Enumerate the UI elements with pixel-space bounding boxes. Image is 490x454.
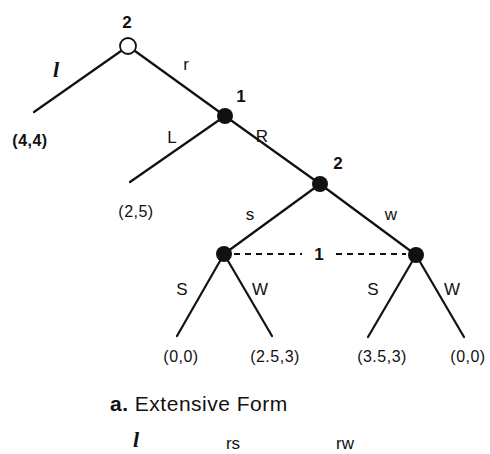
player1-node-filled [217,108,233,124]
node1-player-label: 1 [236,88,245,105]
payoff-L: (2,5) [118,204,153,220]
root-player-label: 2 [122,14,131,31]
caption-text: Extensive Form [135,392,288,415]
edge-w [320,184,416,255]
payoff-wW: (0,0) [450,349,485,365]
tree-edges [0,0,490,454]
payoff-wS: (3.5,3) [357,349,407,365]
action-R-label: R [256,128,268,145]
information-set-player-label: 1 [310,246,327,263]
action-W-left-label: W [252,281,268,298]
caption-prefix: a. [110,392,129,415]
edge-L [130,116,225,182]
info-set-node-right [408,247,424,263]
action-s-label: s [246,206,255,223]
edge-l [34,51,121,112]
figure-caption: a. Extensive Form [110,392,288,416]
extensive-form-game-tree: 2 1 2 1 l r L R s w S W S W (4,4) (2,5) … [0,0,490,454]
node2-player-label: 2 [333,155,342,172]
edge-s [224,184,320,254]
strategy-l-label: l [133,429,139,451]
action-l-label: l [53,59,59,81]
strategy-rs-label: rs [226,435,240,452]
payoff-sW: (2.5,3) [250,349,300,365]
payoff-sS: (0,0) [163,349,198,365]
info-set-node-left [216,246,232,262]
action-r-label: r [183,56,189,73]
edge-r [135,51,225,116]
action-S-left-label: S [176,281,187,298]
action-S-right-label: S [367,281,378,298]
edge-R [225,116,320,184]
action-w-label: w [385,206,397,223]
player2-node-filled [312,176,328,192]
action-L-label: L [167,129,176,146]
action-W-right-label: W [444,281,460,298]
payoff-l: (4,4) [12,133,47,149]
strategy-rw-label: rw [336,435,354,452]
root-node-open-circle [120,38,136,54]
